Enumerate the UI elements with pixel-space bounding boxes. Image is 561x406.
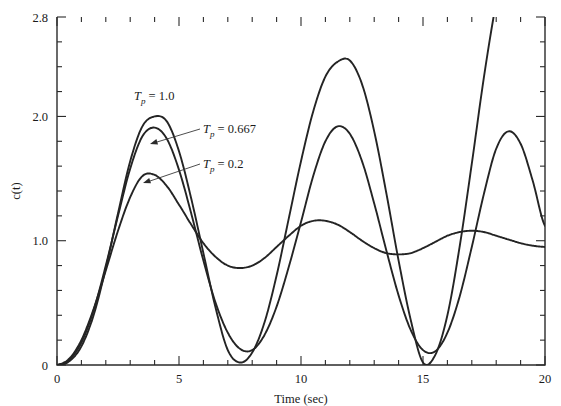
x-tick-label: 5 bbox=[176, 372, 182, 386]
curve-tp-1-0 bbox=[57, 0, 545, 365]
axis-frame bbox=[57, 17, 545, 365]
y-tick-label: 0 bbox=[42, 359, 48, 373]
leader-tp-0667-arrowhead bbox=[150, 139, 158, 144]
ann-tp-0667: Tp = 0.667 bbox=[203, 122, 256, 139]
ann-tp-02-value: = 0.2 bbox=[214, 157, 243, 171]
ann-tp-0667-value: = 0.667 bbox=[214, 122, 255, 136]
curve-tp-0-2 bbox=[57, 173, 545, 365]
axes-group bbox=[57, 17, 545, 365]
curves-group bbox=[57, 0, 545, 365]
x-tick-label: 10 bbox=[295, 372, 308, 386]
ann-tp-1-value: = 1.0 bbox=[145, 89, 174, 103]
x-axis-title: Time (sec) bbox=[274, 392, 327, 406]
plot-svg: Tp = 1.0Tp = 0.667Tp = 0.2 0510152001.02… bbox=[0, 0, 561, 406]
y-axis-title: c(t) bbox=[9, 182, 23, 199]
y-tick-label: 2.8 bbox=[32, 11, 48, 25]
leader-tp-02 bbox=[150, 164, 200, 181]
axis-labels-group: 0510152001.02.02.8Time (sec)c(t) bbox=[9, 11, 551, 406]
y-tick-label: 2.0 bbox=[32, 110, 48, 124]
leader-tp-0667 bbox=[157, 129, 200, 142]
annotations-group: Tp = 1.0Tp = 0.667Tp = 0.2 bbox=[134, 89, 256, 183]
ann-tp-1: Tp = 1.0 bbox=[134, 89, 174, 106]
x-tick-label: 20 bbox=[539, 372, 552, 386]
ann-tp-02: Tp = 0.2 bbox=[203, 157, 243, 174]
y-tick-label: 1.0 bbox=[32, 234, 48, 248]
leader-tp-02-arrowhead bbox=[143, 178, 151, 183]
x-tick-label: 0 bbox=[54, 372, 60, 386]
x-tick-label: 15 bbox=[417, 372, 430, 386]
chart-figure: Tp = 1.0Tp = 0.667Tp = 0.2 0510152001.02… bbox=[0, 0, 561, 406]
